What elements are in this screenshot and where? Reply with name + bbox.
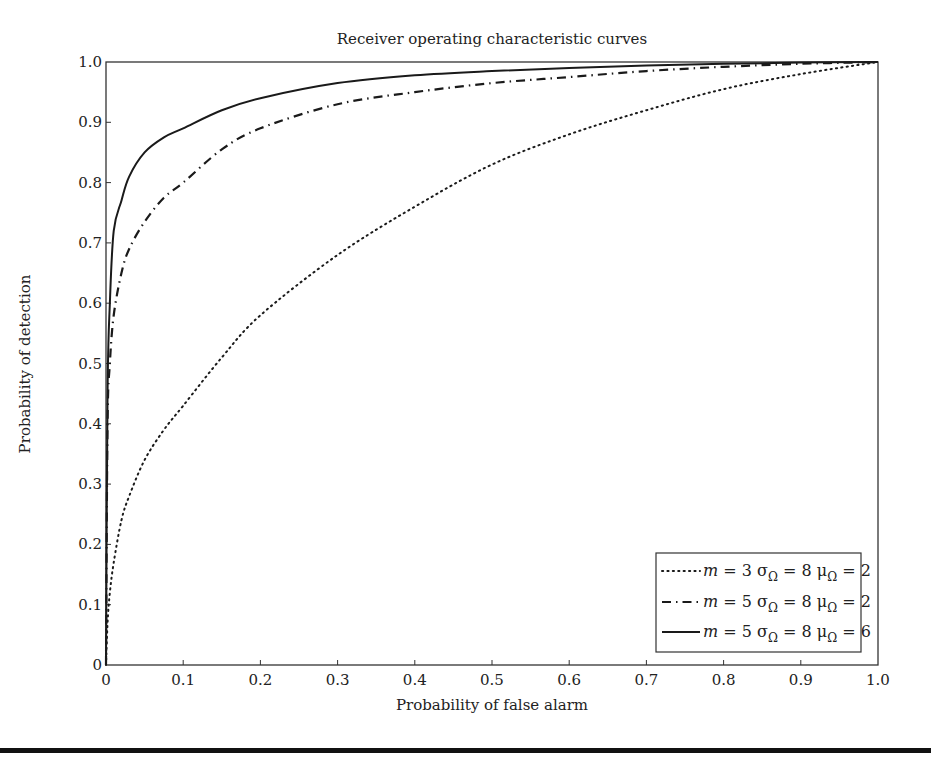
x-tick-label: 0.9: [789, 671, 813, 689]
x-tick-label: 1.0: [866, 671, 890, 689]
y-tick-label: 0.3: [78, 475, 102, 493]
x-tick-label: 0.3: [326, 671, 350, 689]
x-tick-label: 0.4: [403, 671, 427, 689]
y-tick-label: 0.5: [78, 355, 102, 373]
roc-chart: Receiver operating characteristic curves…: [0, 0, 931, 757]
y-tick-label: 0.1: [78, 596, 102, 614]
page-bottom-rule: [0, 748, 931, 753]
y-tick-label: 0.9: [78, 113, 102, 131]
y-tick-label: 0.7: [78, 234, 102, 252]
y-tick-label: 0.8: [78, 174, 102, 192]
x-tick-label: 0.8: [712, 671, 736, 689]
x-tick-label: 0: [101, 671, 111, 689]
x-tick-label: 0.5: [480, 671, 504, 689]
chart-title: Receiver operating characteristic curves: [337, 30, 647, 48]
x-axis-label: Probability of false alarm: [396, 696, 588, 714]
x-tick-label: 0.1: [171, 671, 195, 689]
y-tick-label: 1.0: [78, 53, 102, 71]
y-tick-label: 0.2: [78, 535, 102, 553]
x-axis-ticks: 00.10.20.30.40.50.60.70.80.91.0: [101, 660, 890, 689]
legend: m = 3 σΩ = 8 μΩ = 2m = 5 σΩ = 8 μΩ = 2m …: [656, 553, 871, 652]
x-tick-label: 0.2: [248, 671, 272, 689]
y-tick-label: 0.6: [78, 294, 102, 312]
y-tick-label: 0.4: [78, 415, 102, 433]
x-tick-label: 0.6: [557, 671, 581, 689]
y-axis-label: Probability of detection: [16, 274, 34, 453]
x-tick-label: 0.7: [634, 671, 658, 689]
